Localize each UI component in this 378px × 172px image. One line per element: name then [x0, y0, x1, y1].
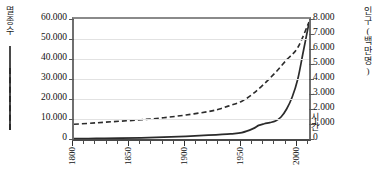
chart-root: 멸 종 수 인 구 ( 백 만 명 ) 010.00020.00030.0004… — [0, 0, 378, 172]
left-axis-tick-label: 50.000 — [11, 32, 67, 42]
x-axis-title: 시 간 — [309, 112, 321, 132]
left-axis-tick-mark — [69, 139, 74, 140]
right-axis-tick-mark — [309, 64, 314, 65]
left-axis-tick-mark — [69, 19, 74, 20]
x-axis-tick-label: 1950 — [235, 147, 245, 165]
right-axis-title-char-7: ) — [360, 66, 376, 76]
right-axis-tick-label: 6.000 — [313, 42, 357, 52]
right-axis-tick-label: 0 — [313, 132, 357, 142]
right-axis-tick-mark — [309, 49, 314, 50]
right-axis-tick-label: 5.000 — [313, 57, 357, 67]
right-axis-title-char-1: 인 — [360, 6, 376, 16]
right-axis-tick-mark — [309, 79, 314, 80]
gridline — [74, 119, 309, 120]
right-axis-title-char-4: 백 — [360, 36, 376, 46]
left-axis-tick-label: 20.000 — [11, 92, 67, 102]
gridline — [74, 99, 309, 100]
left-axis-tick-mark — [69, 79, 74, 80]
right-axis-title-char-2: 구 — [360, 16, 376, 26]
x-axis-tick-label: 2000 — [291, 147, 301, 165]
population-dashed-curve — [74, 22, 309, 124]
gridline — [74, 39, 309, 40]
right-axis-title-char-5: 만 — [360, 46, 376, 56]
right-axis-title: 인 구 ( 백 만 명 ) — [360, 6, 376, 76]
right-axis-tick-label: 7.000 — [313, 27, 357, 37]
right-axis-tick-label: 3.000 — [313, 87, 357, 97]
right-axis-tick-label: 4.000 — [313, 72, 357, 82]
plot-area — [72, 17, 311, 141]
right-axis-tick-mark — [309, 34, 314, 35]
left-axis-tick-mark — [69, 59, 74, 60]
gridline — [74, 59, 309, 60]
x-axis-tick-label: 1800 — [67, 147, 77, 165]
left-axis-tick-label: 30.000 — [11, 72, 67, 82]
right-axis-title-char-3: ( — [360, 26, 376, 36]
left-axis-tick-label: 10.000 — [11, 112, 67, 122]
right-axis-tick-mark — [309, 109, 314, 110]
left-axis-tick-label: 60.000 — [11, 12, 67, 22]
right-axis-tick-label: 8.000 — [313, 12, 357, 22]
left-axis-tick-mark — [69, 99, 74, 100]
x-axis-title-char-1: 시 — [309, 112, 321, 122]
left-axis-tick-mark — [69, 119, 74, 120]
left-axis-tick-label: 40.000 — [11, 52, 67, 62]
left-axis-tick-label: 0 — [11, 132, 67, 142]
left-axis-tick-mark — [69, 39, 74, 40]
right-axis-tick-mark — [309, 94, 314, 95]
right-axis-tick-mark — [309, 139, 314, 140]
right-axis-tick-mark — [309, 19, 314, 20]
x-axis-tick-label: 1850 — [123, 147, 133, 165]
gridline — [74, 79, 309, 80]
right-axis-title-char-6: 명 — [360, 56, 376, 66]
x-axis-title-char-2: 간 — [309, 122, 321, 132]
x-axis-tick-label: 1900 — [179, 147, 189, 165]
right-axis-tick-label: 2.000 — [313, 102, 357, 112]
